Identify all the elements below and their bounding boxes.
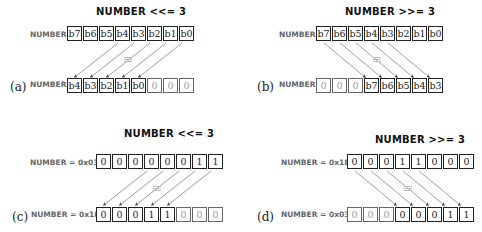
bottom-bit-row: 0 0 0 1 1 0 0 0	[96, 207, 223, 222]
bit-cell: 0	[427, 207, 442, 222]
panel-letter: (d)	[257, 210, 274, 224]
bit-cell: 0	[128, 207, 143, 222]
bit-cell: b3	[428, 78, 443, 93]
bottom-bit-row: b4 b3 b2 b1 b0 0 0 0	[67, 78, 194, 93]
filled-zero-cell: 0	[348, 78, 363, 93]
bit-cell: 1	[443, 207, 458, 222]
watermark-icon	[373, 57, 381, 63]
shift-arrows	[0, 0, 241, 116]
bottom-row-label: NUMBER	[30, 80, 66, 89]
bit-cell: b2	[99, 78, 114, 93]
panel-d: NUMBER >>= 3 NUMBER = 0x18 0 0 0 1 1 0 0…	[241, 116, 482, 232]
watermark-icon	[404, 186, 412, 192]
bit-cell: b4	[67, 78, 82, 93]
watermark-icon	[153, 186, 161, 192]
shift-arrows	[241, 0, 482, 116]
panel-letter: (c)	[12, 210, 28, 224]
panel-b: NUMBER >>= 3 NUMBER b7 b6 b5 b4 b3 b2 b1…	[241, 0, 482, 116]
bottom-bit-row: 0 0 0 0 0 0 1 1	[347, 207, 474, 222]
bottom-bit-row: 0 0 0 b7 b6 b5 b4 b3	[316, 78, 443, 93]
bit-cell: 0	[395, 207, 410, 222]
bottom-row-label: NUMBER = 0x03	[281, 210, 349, 219]
filled-zero-cell: 0	[147, 78, 162, 93]
panel-c: NUMBER <<= 3 NUMBER = 0x03 0 0 0 0 0 0 1…	[0, 116, 241, 232]
panel-letter: (b)	[257, 80, 274, 94]
bit-cell: b5	[396, 78, 411, 93]
bit-cell: b6	[380, 78, 395, 93]
bit-cell: 0	[96, 207, 111, 222]
bit-cell: 0	[411, 207, 426, 222]
filled-zero-cell: 0	[316, 78, 331, 93]
panel-a: NUMBER <<= 3 NUMBER b7 b6 b5 b4 b3 b2 b1…	[0, 0, 241, 116]
panel-letter: (a)	[10, 80, 27, 94]
bit-cell: 1	[160, 207, 175, 222]
bit-cell: 1	[144, 207, 159, 222]
filled-zero-cell: 0	[208, 207, 223, 222]
bit-cell: b1	[115, 78, 130, 93]
filled-zero-cell: 0	[163, 78, 178, 93]
bit-cell: b4	[412, 78, 427, 93]
bit-cell: b7	[364, 78, 379, 93]
filled-zero-cell: 0	[332, 78, 347, 93]
filled-zero-cell: 0	[347, 207, 362, 222]
filled-zero-cell: 0	[192, 207, 207, 222]
bit-cell: 0	[112, 207, 127, 222]
filled-zero-cell: 0	[363, 207, 378, 222]
filled-zero-cell: 0	[179, 78, 194, 93]
bit-cell: b3	[83, 78, 98, 93]
filled-zero-cell: 0	[176, 207, 191, 222]
filled-zero-cell: 0	[379, 207, 394, 222]
bottom-row-label: NUMBER = 0x18	[31, 210, 99, 219]
bit-cell: 1	[459, 207, 474, 222]
bit-cell: b0	[131, 78, 146, 93]
bottom-row-label: NUMBER	[279, 80, 315, 89]
watermark-icon	[124, 57, 132, 63]
